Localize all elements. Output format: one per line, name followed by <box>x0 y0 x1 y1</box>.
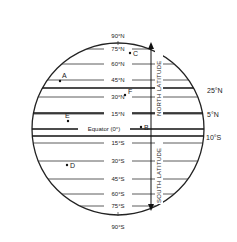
label-30s: 30°S <box>111 158 124 164</box>
label-45s: 45°S <box>111 176 124 182</box>
svg-text:B: B <box>144 124 149 131</box>
label-75n: 75°N <box>111 46 124 52</box>
point-a: A <box>59 72 67 82</box>
label-60n: 60°N <box>111 61 124 67</box>
svg-text:C: C <box>133 50 138 57</box>
svg-text:E: E <box>65 112 70 119</box>
side-label-5n: 5°N <box>207 111 219 118</box>
arrow-up-icon <box>148 42 154 49</box>
latitude-globe-diagram: 90°N 75°N 60°N 45°N 30°N 15°N Equator (0… <box>0 0 237 242</box>
side-label-10s: 10°S <box>206 134 222 141</box>
label-75s: 75°S <box>111 203 124 209</box>
svg-text:D: D <box>70 162 75 169</box>
south-latitude-label: SOUTH LATITUDE <box>156 148 162 203</box>
point-f: F <box>124 88 132 96</box>
label-90s: 90°S <box>111 224 124 230</box>
north-latitude-label: NORTH LATITUDE <box>156 60 162 116</box>
svg-text:A: A <box>62 72 67 79</box>
label-30n: 30°N <box>111 94 124 100</box>
label-45n: 45°N <box>111 77 124 83</box>
point-b: B <box>140 124 149 131</box>
label-equator: Equator (0°) <box>88 126 120 132</box>
latitude-axis: NORTH LATITUDE SOUTH LATITUDE <box>148 42 163 211</box>
label-90n: 90°N <box>111 33 124 39</box>
label-15n: 15°N <box>111 111 124 117</box>
label-60s: 60°S <box>111 191 124 197</box>
svg-text:F: F <box>128 88 132 95</box>
side-label-25n: 25°N <box>207 87 223 94</box>
point-e: E <box>65 112 70 122</box>
label-15s: 15°S <box>111 140 124 146</box>
point-d: D <box>66 162 75 169</box>
